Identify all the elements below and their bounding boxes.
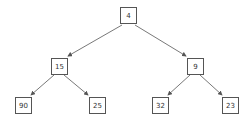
edge-4-15 (68, 25, 122, 56)
node-label: 23 (226, 102, 235, 110)
tree-node-23: 23 (222, 97, 239, 114)
node-label: 25 (93, 102, 102, 110)
tree-node-32: 32 (152, 97, 169, 114)
node-label: 4 (126, 12, 130, 20)
edge-9-32 (168, 75, 190, 95)
tree-node-25: 25 (89, 97, 106, 114)
node-label: 32 (156, 102, 165, 110)
edge-15-90 (31, 75, 54, 95)
tree-node-90: 90 (15, 97, 32, 114)
node-label: 90 (19, 102, 28, 110)
tree-node-9: 9 (187, 58, 204, 75)
tree-node-4: 4 (120, 7, 137, 24)
node-label: 15 (55, 63, 64, 71)
node-label: 9 (193, 63, 197, 71)
edge-4-9 (135, 25, 186, 56)
edge-15-25 (64, 75, 88, 95)
tree-node-15: 15 (51, 58, 68, 75)
edge-9-23 (200, 75, 222, 95)
